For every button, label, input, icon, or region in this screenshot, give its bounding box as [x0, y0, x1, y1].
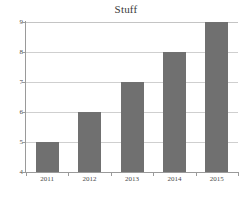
x-tick-mark: [26, 173, 27, 176]
y-axis-labels: 456789: [0, 0, 23, 198]
y-tick-label: 7: [3, 79, 23, 86]
x-axis-line: [25, 172, 239, 173]
x-axis-labels: 20112012201320142015: [26, 175, 238, 191]
y-tick-label: 5: [3, 139, 23, 146]
x-tick-label: 2011: [27, 175, 67, 184]
x-tick-mark: [153, 173, 154, 176]
bar-chart: Stuff 456789 20112012201320142015: [0, 0, 252, 198]
bar[interactable]: [36, 142, 59, 172]
bar[interactable]: [205, 22, 228, 172]
y-tick-label: 6: [3, 109, 23, 116]
x-tick-mark: [196, 173, 197, 176]
plot-area: [26, 22, 238, 172]
x-tick-mark: [111, 173, 112, 176]
x-tick-mark: [68, 173, 69, 176]
x-tick-label: 2014: [154, 175, 194, 184]
bar[interactable]: [121, 82, 144, 172]
bar[interactable]: [78, 112, 101, 172]
x-tick-label: 2015: [197, 175, 237, 184]
x-tick-label: 2013: [112, 175, 152, 184]
bar[interactable]: [163, 52, 186, 172]
x-tick-label: 2012: [70, 175, 110, 184]
y-tick-label: 9: [3, 19, 23, 26]
chart-title: Stuff: [0, 2, 252, 16]
y-tick-label: 4: [3, 169, 23, 176]
x-tick-mark: [238, 173, 239, 176]
y-tick-label: 8: [3, 49, 23, 56]
